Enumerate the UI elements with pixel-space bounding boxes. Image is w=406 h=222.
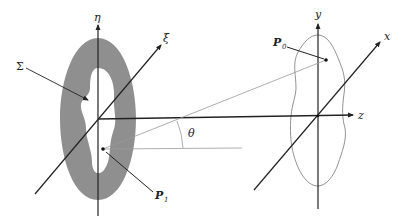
origin-right bbox=[317, 115, 319, 117]
theta-arc bbox=[177, 121, 183, 148]
p0-label: P 0 bbox=[272, 36, 287, 51]
p1-label: P 1 bbox=[154, 189, 168, 204]
xi-label: ξ bbox=[163, 32, 170, 45]
diffraction-geometry-diagram: η ξ Σ y x z θ P 0 P 1 bbox=[0, 0, 406, 222]
y-label: y bbox=[314, 8, 322, 21]
point-p1 bbox=[101, 147, 105, 151]
eta-label: η bbox=[94, 11, 101, 24]
x-label: x bbox=[384, 30, 391, 43]
svg-text:0: 0 bbox=[282, 43, 287, 51]
sigma-label: Σ bbox=[16, 60, 24, 73]
svg-text:P: P bbox=[272, 36, 282, 49]
svg-text:1: 1 bbox=[164, 196, 168, 204]
point-p0 bbox=[324, 58, 328, 62]
svg-text:P: P bbox=[154, 189, 164, 202]
z-label: z bbox=[357, 109, 364, 122]
theta-label: θ bbox=[188, 127, 195, 140]
